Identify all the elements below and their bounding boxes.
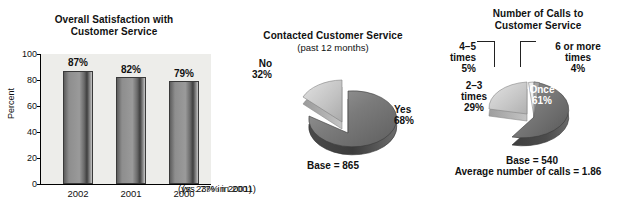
- calls-average-text: Average number of calls = 1.86: [428, 166, 628, 177]
- bar-value-2000: 79%: [174, 68, 194, 79]
- y-tick-label-100: 100: [22, 49, 41, 59]
- calls-label-once: Once 61%: [520, 84, 564, 106]
- bar-chart-y-axis-label: Percent: [6, 88, 16, 119]
- calls-pie-panel: Number of Calls to Customer Service: [432, 0, 631, 203]
- y-tick-label-20: 20: [27, 153, 41, 163]
- contacted-label-yes: Yes 68%: [394, 104, 414, 126]
- calls-label-2-3-line2: times: [461, 91, 487, 102]
- contacted-pie-title: Contacted Customer Service: [242, 30, 424, 42]
- leader-line-6-or-more: [520, 41, 521, 67]
- contacted-base-text: Base = 865: [242, 160, 424, 171]
- leader-elbow-4-5-times: [477, 41, 495, 42]
- contacted-footnote: (vs. 77% in 2001): [182, 183, 256, 194]
- bar-2002[interactable]: [63, 71, 93, 184]
- contacted-pie-graphic: [284, 62, 408, 158]
- calls-label-4-5-value: 5%: [462, 63, 476, 74]
- calls-pie-title-line2: Customer Service: [495, 20, 582, 31]
- contacted-pie-subtitle: (past 12 months): [242, 42, 424, 53]
- x-tick-label-2002: 2002: [67, 188, 88, 199]
- contacted-label-yes-value: 68%: [394, 115, 414, 126]
- contacted-label-yes-text: Yes: [394, 104, 411, 115]
- calls-label-6-or-more-value: 4%: [571, 63, 585, 74]
- calls-base-text: Base = 540: [442, 155, 622, 166]
- bar-chart-title-line1: Overall Satisfaction with: [55, 14, 174, 25]
- y-tick-label-80: 80: [27, 75, 41, 85]
- bar-chart-panel: Overall Satisfaction with Customer Servi…: [0, 10, 232, 203]
- contacted-pie-panel: Contacted Customer Service (past 12 mont…: [232, 10, 432, 203]
- calls-label-4-5-line1: 4–5: [459, 41, 476, 52]
- y-tick-label-0: 0: [32, 179, 41, 189]
- calls-pie-title-line1: Number of Calls to: [493, 8, 584, 19]
- y-tick-label-60: 60: [27, 101, 41, 111]
- bar-chart-plot-area: 100 80 60 40 20 0 87% 2002 82% 2001 79% …: [40, 54, 211, 185]
- calls-label-once-text: Once: [529, 84, 554, 95]
- contacted-label-no: No 32%: [228, 58, 272, 80]
- calls-label-2-3-times: 2–3 times 29%: [451, 80, 497, 113]
- bar-chart-title-line2: Customer Service: [71, 26, 158, 37]
- calls-label-6-or-more-line1: 6 or more: [555, 41, 601, 52]
- contacted-label-no-text: No: [259, 58, 272, 69]
- bar-2000[interactable]: [169, 81, 199, 184]
- bar-2001[interactable]: [116, 77, 146, 184]
- y-tick-label-40: 40: [27, 127, 41, 137]
- contacted-pie-svg: [284, 62, 408, 158]
- calls-label-6-or-more: 6 or more times 4%: [534, 41, 622, 74]
- bar-value-2001: 82%: [121, 64, 141, 75]
- calls-label-4-5-times: 4–5 times 5%: [426, 41, 476, 74]
- calls-label-once-value: 61%: [532, 95, 552, 106]
- bar-value-2002: 87%: [68, 57, 88, 68]
- bar-chart-title: Overall Satisfaction with Customer Servi…: [24, 14, 204, 37]
- x-tick-label-2001: 2001: [120, 188, 141, 199]
- leader-line-4-5-times: [494, 41, 495, 67]
- calls-label-4-5-line2: times: [450, 52, 476, 63]
- calls-label-2-3-line1: 2–3: [466, 80, 483, 91]
- calls-label-6-or-more-line2: times: [565, 52, 591, 63]
- calls-pie-title: Number of Calls to Customer Service: [458, 8, 618, 31]
- contacted-label-no-value: 32%: [252, 69, 272, 80]
- calls-label-2-3-value: 29%: [464, 102, 484, 113]
